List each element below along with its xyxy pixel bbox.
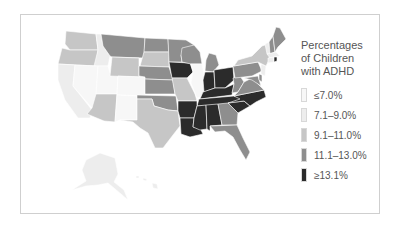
legend-title-line-3: with ADHD	[301, 65, 381, 78]
legend-label: 9.1–11.0%	[314, 130, 361, 141]
state-new-york[interactable]	[234, 44, 270, 66]
legend-label: ≤7.0%	[314, 90, 342, 101]
legend-label: 7.1–9.0%	[314, 110, 356, 121]
legend-item-low: 7.1–9.0%	[301, 106, 381, 124]
legend-swatch	[301, 128, 307, 142]
legend-item-mid: 9.1–11.0%	[301, 126, 381, 144]
legend-swatch	[301, 108, 307, 122]
state-kansas[interactable]	[145, 79, 175, 94]
state-michigan[interactable]	[205, 53, 219, 72]
state-ohio[interactable]	[214, 67, 234, 88]
state-wyoming[interactable]	[110, 57, 139, 77]
state-iowa[interactable]	[169, 62, 193, 78]
legend-title-line-2: of Children	[301, 52, 381, 65]
legend-swatch	[301, 168, 307, 182]
state-rhode-island[interactable]	[274, 57, 277, 62]
state-washington[interactable]	[65, 31, 98, 50]
state-hawaii-2	[143, 178, 147, 181]
legend-title-line-1: Percentages	[301, 39, 381, 52]
state-south-dakota[interactable]	[140, 52, 169, 67]
state-hawaii-3	[152, 183, 158, 189]
legend-title: Percentages of Children with ADHD	[301, 39, 381, 78]
state-florida[interactable]	[210, 125, 250, 160]
legend-item-highest: ≥13.1%	[301, 166, 381, 184]
state-wisconsin[interactable]	[181, 45, 202, 64]
state-hawaii[interactable]	[136, 176, 139, 178]
state-colorado[interactable]	[117, 76, 145, 96]
legend-item-lowest: ≤7.0%	[301, 86, 381, 104]
legend: Percentages of Children with ADHD ≤7.0% …	[301, 39, 381, 186]
legend-swatch	[301, 88, 307, 102]
state-oregon[interactable]	[58, 48, 98, 66]
legend-label: ≥13.1%	[314, 170, 348, 181]
legend-swatch	[301, 148, 307, 162]
state-north-dakota[interactable]	[144, 38, 169, 52]
state-maine[interactable]	[273, 27, 286, 52]
legend-item-high: 11.1–13.0%	[301, 146, 381, 164]
state-arkansas[interactable]	[178, 101, 197, 118]
legend-label: 11.1–13.0%	[314, 150, 367, 161]
state-alaska[interactable]	[72, 153, 128, 200]
state-connecticut[interactable]	[268, 57, 274, 63]
state-new-mexico[interactable]	[115, 95, 137, 122]
